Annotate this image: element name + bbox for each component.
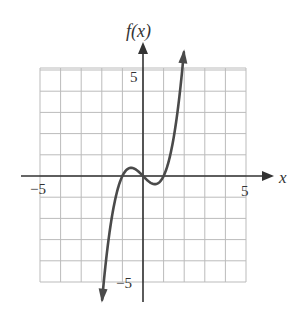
y-tick-max: 5: [130, 69, 138, 85]
y-axis-label: f(x): [126, 21, 151, 42]
axes: [21, 42, 274, 302]
function-graph: f(x) x −5 5 5 −5: [0, 0, 306, 311]
y-axis-arrow-icon: [138, 42, 148, 54]
x-axis-label: x: [278, 168, 287, 187]
x-tick-min: −5: [30, 181, 46, 197]
x-tick-max: 5: [241, 183, 249, 199]
curve-arrow-up-icon: [178, 49, 187, 63]
curve-arrow-down-icon: [99, 288, 108, 302]
x-axis-arrow-icon: [262, 171, 274, 181]
y-tick-min: −5: [116, 275, 132, 291]
